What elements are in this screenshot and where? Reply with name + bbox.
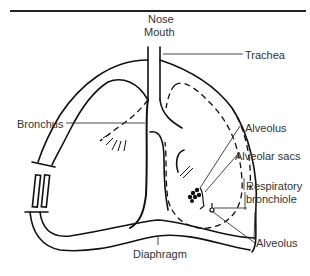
label-bronchiole: bronchiole bbox=[246, 193, 297, 205]
label-alveolus-bottom: Alveolus bbox=[256, 237, 298, 249]
label-respiratory: Respiratory bbox=[246, 180, 302, 192]
lung-diagram bbox=[0, 0, 310, 276]
label-mouth: Mouth bbox=[144, 26, 175, 38]
label-nose: Nose bbox=[148, 13, 174, 25]
label-trachea: Trachea bbox=[245, 49, 285, 61]
label-alveolar-sacs: Alveolar sacs bbox=[235, 150, 300, 162]
label-bronchus: Bronchus bbox=[17, 118, 63, 130]
label-alveolus-top: Alveolus bbox=[245, 122, 287, 134]
label-diaphragm: Diaphragm bbox=[133, 248, 187, 260]
